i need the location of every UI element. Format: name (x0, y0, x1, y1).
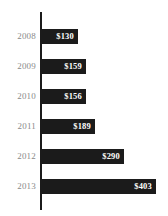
bar: $189 (41, 119, 95, 134)
bar-row: 2009$159 (0, 59, 168, 74)
bar-value-label: $290 (102, 149, 120, 164)
bar-row: 2010$156 (0, 89, 168, 104)
category-label: 2009 (0, 59, 36, 74)
bar: $290 (41, 149, 124, 164)
bar-value-label: $156 (64, 89, 82, 104)
bar-chart: 2008$1302009$1592010$1562011$1892012$290… (0, 0, 168, 216)
bar: $159 (41, 59, 86, 74)
bar-value-label: $403 (134, 179, 152, 194)
bar: $403 (41, 179, 156, 194)
bar-row: 2012$290 (0, 149, 168, 164)
category-label: 2013 (0, 179, 36, 194)
category-label: 2012 (0, 149, 36, 164)
bar-row: 2011$189 (0, 119, 168, 134)
category-label: 2010 (0, 89, 36, 104)
bar-value-label: $130 (56, 29, 74, 44)
plot-area: 2008$1302009$1592010$1562011$1892012$290… (0, 0, 168, 216)
category-label: 2011 (0, 119, 36, 134)
bar: $130 (41, 29, 78, 44)
category-label: 2008 (0, 29, 36, 44)
bar-value-label: $159 (64, 59, 82, 74)
bar-row: 2013$403 (0, 179, 168, 194)
bar-value-label: $189 (73, 119, 91, 134)
bar-row: 2008$130 (0, 29, 168, 44)
bar: $156 (41, 89, 86, 104)
